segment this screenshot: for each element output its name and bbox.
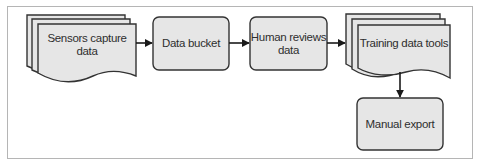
node-tools-label: Training data tools	[358, 28, 450, 58]
node-sensors-label: Sensors capture data	[38, 28, 136, 62]
node-human-label: Human reviews data	[250, 17, 327, 70]
node-export-label: Manual export	[357, 98, 443, 150]
node-bucket-label: Data bucket	[153, 17, 229, 70]
